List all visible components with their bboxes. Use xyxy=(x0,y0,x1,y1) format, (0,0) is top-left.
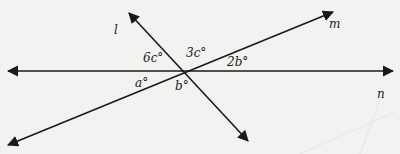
faint-line xyxy=(300,112,395,154)
line-l-label: l xyxy=(114,23,118,37)
angle-2b-label: 2b° xyxy=(226,55,248,69)
line-m-label: m xyxy=(329,17,340,31)
faint-line xyxy=(360,100,380,154)
angle-3c-label: 3c° xyxy=(186,46,206,60)
angle-diagram: l m n 6c° 3c° 2b° a° b° xyxy=(0,0,400,154)
angle-a-label: a° xyxy=(135,76,148,90)
angle-6c-label: 6c° xyxy=(143,51,163,65)
line-n-label: n xyxy=(377,87,385,101)
line-m xyxy=(8,12,333,145)
angle-b-label: b° xyxy=(175,79,189,93)
